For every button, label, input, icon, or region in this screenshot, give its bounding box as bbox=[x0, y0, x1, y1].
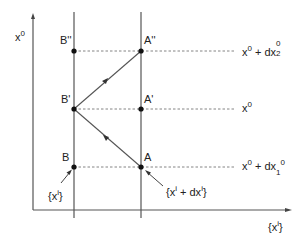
point-B-prime bbox=[71, 106, 76, 111]
annotation-xi: {xi} bbox=[48, 191, 63, 202]
path-Bprime-to-Aprimeprime bbox=[74, 51, 141, 109]
label-A-double-prime: A'' bbox=[144, 35, 156, 46]
pointer-xi-arrow-icon bbox=[67, 170, 73, 176]
point-A-prime bbox=[138, 106, 143, 111]
label-A: A bbox=[144, 152, 151, 163]
horizontal-axis-label: {xi} bbox=[268, 222, 283, 233]
label-B-double-prime: B'' bbox=[60, 35, 72, 46]
level-label-bottom: x0 + dx10 bbox=[242, 161, 285, 175]
vertical-axis-arrow-icon bbox=[31, 13, 35, 19]
point-A bbox=[138, 164, 143, 169]
vertical-axis-label: x0 bbox=[15, 32, 25, 43]
level-lines bbox=[74, 51, 236, 167]
level-label-mid: x0 bbox=[242, 103, 252, 114]
annotation-xi-plus-dxi: {xi + dxi} bbox=[166, 187, 207, 198]
horizontal-axis-arrow-icon bbox=[285, 208, 292, 212]
point-B bbox=[71, 164, 76, 169]
level-label-top: x0 + dx02 bbox=[242, 45, 283, 58]
mid-arrow-lower-icon bbox=[103, 135, 109, 141]
world-lines bbox=[74, 12, 141, 218]
pointer-arrows bbox=[61, 170, 163, 187]
point-B-double-prime bbox=[71, 48, 76, 53]
label-A-prime: A' bbox=[144, 94, 153, 105]
label-B-prime: B' bbox=[61, 94, 70, 105]
label-B: B bbox=[62, 152, 69, 163]
point-A-double-prime bbox=[138, 48, 143, 53]
